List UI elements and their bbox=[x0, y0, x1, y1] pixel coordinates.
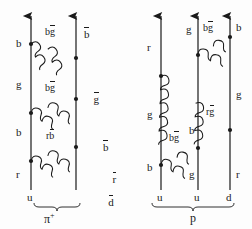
pion-label-bbar-low-text: b bbox=[103, 141, 109, 153]
pion-gluon-2-label-b: g bbox=[50, 82, 55, 93]
proton-brace bbox=[152, 203, 234, 211]
proton-label-g-l2-top: g bbox=[186, 24, 192, 35]
pion-gluon-1-label-b: g bbox=[50, 26, 55, 37]
proton-diagram-group bbox=[127, 16, 234, 211]
pion-brace bbox=[34, 203, 80, 211]
pion-diagram-group bbox=[24, 16, 80, 211]
proton-label-r-l1-top: r bbox=[147, 42, 151, 53]
pion-label-r-left-bot: r bbox=[16, 169, 20, 180]
proton-gluon-1-label: bg bbox=[203, 23, 213, 33]
pion-gluon-2-label: bg bbox=[45, 83, 55, 93]
proton-label-b-l2-mid: b bbox=[189, 125, 195, 136]
pion-label-rbar-bot: r bbox=[113, 174, 117, 185]
proton-bottom-label-u2: u bbox=[194, 192, 200, 203]
proton-gluon-2 bbox=[127, 73, 232, 146]
proton-label-g-l3-mid: g bbox=[236, 89, 242, 100]
proton-caption: p bbox=[190, 212, 196, 224]
pion-label-bbar-top-text: b bbox=[84, 28, 90, 40]
pion-bottom-label-dbar-text: d bbox=[108, 196, 114, 208]
proton-bottom-label-d: d bbox=[226, 192, 232, 203]
proton-gluon-1-label-b: g bbox=[208, 22, 213, 33]
pion-bottom-label-dbar: d bbox=[108, 197, 114, 208]
proton-label-g-l1-mid: g bbox=[147, 109, 153, 120]
pion-label-bbar-low: b bbox=[103, 142, 109, 153]
pion-label-b-left-low: b bbox=[16, 127, 22, 138]
pion-gluon-1-label: bg bbox=[45, 27, 55, 37]
proton-gluon-2-label: rg bbox=[206, 107, 214, 117]
pion-gluon-3-label: rb bbox=[46, 131, 54, 141]
pion-label-g-left-mid: g bbox=[16, 79, 22, 90]
pion-caption-superscript: + bbox=[50, 211, 55, 220]
pion-gluon-3-label-b: b bbox=[49, 130, 54, 141]
proton-label-g-l2-bot: g bbox=[189, 169, 195, 180]
proton-gluon-1 bbox=[196, 35, 232, 74]
proton-label-r-l3-bot: r bbox=[236, 169, 240, 180]
pion-label-rbar-bot-text: r bbox=[113, 173, 117, 185]
pion-caption: π+ bbox=[44, 212, 55, 225]
pion-label-b-left-top: b bbox=[16, 38, 22, 49]
proton-gluon-3-label: bg bbox=[169, 133, 179, 143]
proton-gluon-3-label-b: g bbox=[174, 132, 179, 143]
proton-gluon-2-label-b: g bbox=[209, 106, 214, 117]
pion-bottom-label-u: u bbox=[27, 192, 33, 203]
proton-label-b-l3-top: b bbox=[236, 22, 242, 33]
pion-gluon-1 bbox=[24, 41, 78, 76]
proton-bottom-label-u1: u bbox=[157, 192, 163, 203]
proton-label-b-l1-bot: b bbox=[147, 162, 153, 173]
pion-gluon-3 bbox=[29, 145, 78, 182]
feynman-diagram-figure: b g b r b g b r bg bg rb u d π+ r g b g … bbox=[0, 0, 252, 229]
pion-label-gbar-mid-text: g bbox=[94, 93, 100, 105]
pion-label-bbar-top: b bbox=[84, 29, 90, 40]
pion-label-gbar-mid: g bbox=[94, 94, 100, 105]
